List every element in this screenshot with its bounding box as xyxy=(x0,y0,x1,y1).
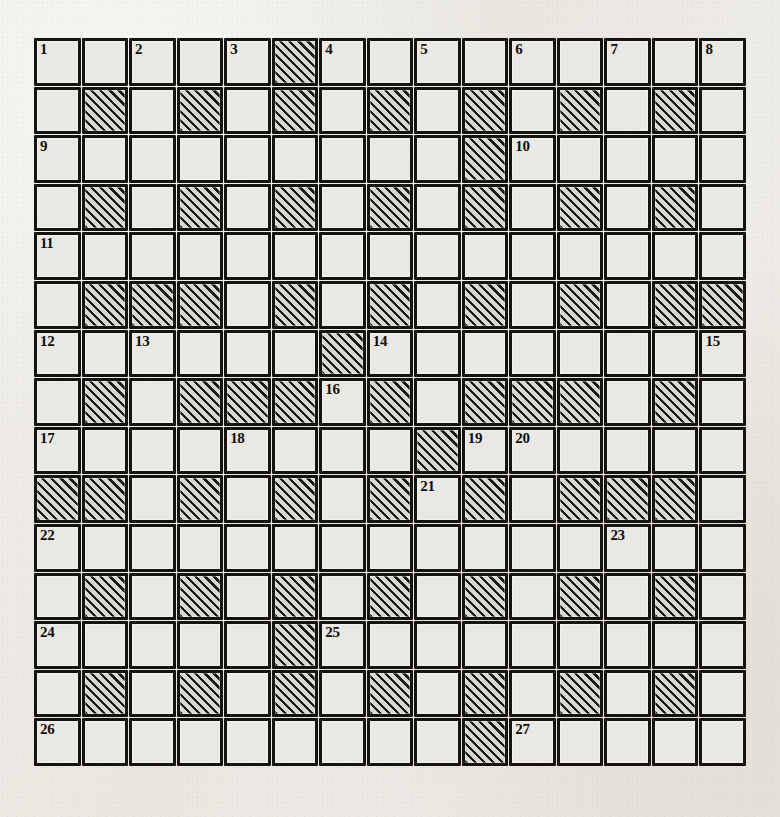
letter-cell[interactable] xyxy=(224,718,271,766)
letter-cell[interactable] xyxy=(652,524,699,572)
letter-cell[interactable] xyxy=(509,573,556,621)
letter-cell[interactable] xyxy=(367,427,414,475)
letter-cell[interactable] xyxy=(272,524,319,572)
letter-cell[interactable] xyxy=(177,427,224,475)
letter-cell[interactable] xyxy=(604,135,651,183)
letter-cell[interactable] xyxy=(414,718,461,766)
letter-cell[interactable]: 1 xyxy=(34,38,81,86)
letter-cell[interactable] xyxy=(177,38,224,86)
letter-cell[interactable] xyxy=(224,232,271,280)
letter-cell[interactable]: 3 xyxy=(224,38,271,86)
letter-cell[interactable] xyxy=(414,281,461,329)
letter-cell[interactable]: 7 xyxy=(604,38,651,86)
letter-cell[interactable]: 10 xyxy=(509,135,556,183)
letter-cell[interactable] xyxy=(462,621,509,669)
letter-cell[interactable] xyxy=(699,621,746,669)
letter-cell[interactable] xyxy=(129,524,176,572)
letter-cell[interactable] xyxy=(699,378,746,426)
letter-cell[interactable] xyxy=(509,330,556,378)
letter-cell[interactable] xyxy=(652,330,699,378)
letter-cell[interactable]: 11 xyxy=(34,232,81,280)
letter-cell[interactable] xyxy=(367,621,414,669)
letter-cell[interactable] xyxy=(699,427,746,475)
letter-cell[interactable] xyxy=(414,524,461,572)
letter-cell[interactable] xyxy=(652,135,699,183)
letter-cell[interactable] xyxy=(82,524,129,572)
letter-cell[interactable] xyxy=(177,232,224,280)
letter-cell[interactable]: 14 xyxy=(367,330,414,378)
letter-cell[interactable] xyxy=(557,524,604,572)
letter-cell[interactable] xyxy=(82,427,129,475)
letter-cell[interactable] xyxy=(129,378,176,426)
letter-cell[interactable]: 18 xyxy=(224,427,271,475)
letter-cell[interactable] xyxy=(272,427,319,475)
letter-cell[interactable] xyxy=(414,184,461,232)
letter-cell[interactable] xyxy=(177,135,224,183)
letter-cell[interactable] xyxy=(129,621,176,669)
letter-cell[interactable] xyxy=(699,524,746,572)
letter-cell[interactable] xyxy=(319,281,366,329)
letter-cell[interactable] xyxy=(604,427,651,475)
letter-cell[interactable] xyxy=(604,621,651,669)
letter-cell[interactable] xyxy=(699,670,746,718)
letter-cell[interactable] xyxy=(177,621,224,669)
letter-cell[interactable] xyxy=(604,184,651,232)
letter-cell[interactable] xyxy=(319,232,366,280)
letter-cell[interactable]: 19 xyxy=(462,427,509,475)
letter-cell[interactable] xyxy=(604,330,651,378)
letter-cell[interactable] xyxy=(224,524,271,572)
letter-cell[interactable]: 23 xyxy=(604,524,651,572)
letter-cell[interactable]: 17 xyxy=(34,427,81,475)
letter-cell[interactable] xyxy=(557,718,604,766)
letter-cell[interactable]: 8 xyxy=(699,38,746,86)
letter-cell[interactable] xyxy=(224,135,271,183)
letter-cell[interactable] xyxy=(367,232,414,280)
letter-cell[interactable] xyxy=(652,232,699,280)
letter-cell[interactable] xyxy=(129,135,176,183)
letter-cell[interactable] xyxy=(319,475,366,523)
letter-cell[interactable] xyxy=(82,38,129,86)
letter-cell[interactable] xyxy=(129,232,176,280)
letter-cell[interactable] xyxy=(177,718,224,766)
letter-cell[interactable]: 25 xyxy=(319,621,366,669)
letter-cell[interactable] xyxy=(604,378,651,426)
letter-cell[interactable]: 9 xyxy=(34,135,81,183)
letter-cell[interactable] xyxy=(652,718,699,766)
letter-cell[interactable] xyxy=(319,670,366,718)
letter-cell[interactable] xyxy=(414,87,461,135)
letter-cell[interactable] xyxy=(367,718,414,766)
letter-cell[interactable] xyxy=(557,38,604,86)
letter-cell[interactable] xyxy=(557,330,604,378)
letter-cell[interactable] xyxy=(129,475,176,523)
letter-cell[interactable] xyxy=(509,475,556,523)
letter-cell[interactable] xyxy=(509,524,556,572)
letter-cell[interactable] xyxy=(557,135,604,183)
letter-cell[interactable]: 15 xyxy=(699,330,746,378)
letter-cell[interactable] xyxy=(699,573,746,621)
letter-cell[interactable]: 22 xyxy=(34,524,81,572)
letter-cell[interactable] xyxy=(509,621,556,669)
letter-cell[interactable] xyxy=(604,573,651,621)
letter-cell[interactable]: 27 xyxy=(509,718,556,766)
letter-cell[interactable] xyxy=(34,670,81,718)
letter-cell[interactable] xyxy=(129,718,176,766)
letter-cell[interactable] xyxy=(699,232,746,280)
letter-cell[interactable] xyxy=(129,184,176,232)
letter-cell[interactable] xyxy=(34,87,81,135)
letter-cell[interactable] xyxy=(224,670,271,718)
letter-cell[interactable] xyxy=(129,87,176,135)
letter-cell[interactable] xyxy=(272,135,319,183)
letter-cell[interactable] xyxy=(699,184,746,232)
letter-cell[interactable] xyxy=(177,330,224,378)
letter-cell[interactable]: 2 xyxy=(129,38,176,86)
letter-cell[interactable] xyxy=(557,621,604,669)
letter-cell[interactable] xyxy=(34,281,81,329)
letter-cell[interactable] xyxy=(462,330,509,378)
letter-cell[interactable]: 13 xyxy=(129,330,176,378)
letter-cell[interactable] xyxy=(367,38,414,86)
letter-cell[interactable] xyxy=(414,330,461,378)
letter-cell[interactable] xyxy=(414,573,461,621)
letter-cell[interactable] xyxy=(272,232,319,280)
letter-cell[interactable] xyxy=(604,87,651,135)
letter-cell[interactable] xyxy=(509,87,556,135)
